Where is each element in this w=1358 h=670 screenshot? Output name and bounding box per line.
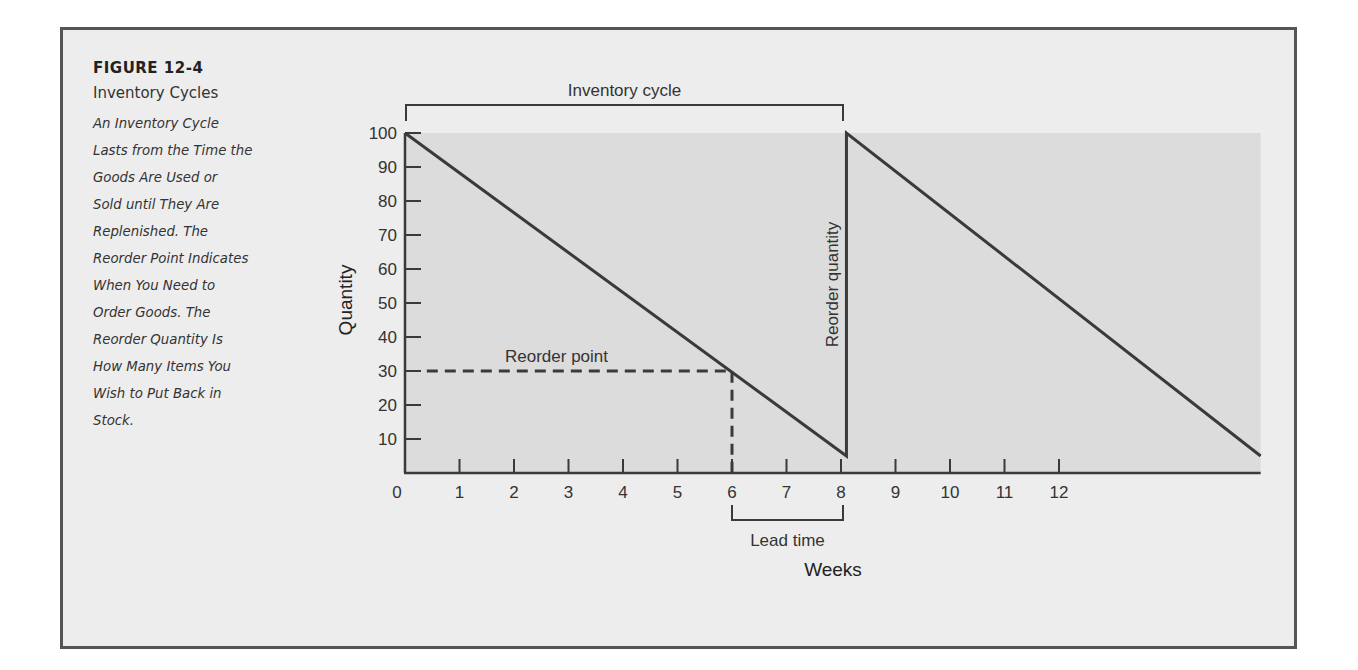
x-tick-label: 11 bbox=[996, 483, 1014, 502]
y-axis-title: Quantity bbox=[335, 264, 356, 335]
x-tick-label: 12 bbox=[1050, 483, 1069, 502]
lead-time-bracket bbox=[732, 505, 843, 520]
y-tick-label: 40 bbox=[378, 328, 397, 347]
x-tick-label: 2 bbox=[509, 483, 518, 502]
x-tick-label: 5 bbox=[673, 483, 682, 502]
inventory-cycle-label: Inventory cycle bbox=[568, 81, 681, 100]
x-tick-label: 1 bbox=[455, 483, 464, 502]
x-tick-label: 4 bbox=[618, 483, 627, 502]
y-tick-label: 20 bbox=[378, 396, 397, 415]
y-tick-label: 100 bbox=[369, 124, 397, 143]
x-tick-label: 0 bbox=[392, 483, 401, 502]
y-tick-label: 60 bbox=[378, 260, 397, 279]
y-tick-label: 90 bbox=[378, 158, 397, 177]
inventory-cycle-bracket bbox=[406, 105, 843, 121]
x-tick-label: 10 bbox=[941, 483, 960, 502]
lead-time-label: Lead time bbox=[750, 531, 825, 550]
y-tick-label: 80 bbox=[378, 192, 397, 211]
y-tick-label: 30 bbox=[378, 362, 397, 381]
y-tick-label: 50 bbox=[378, 294, 397, 313]
x-tick-label: 9 bbox=[891, 483, 900, 502]
reorder-point-label: Reorder point bbox=[505, 347, 608, 366]
y-tick-label: 10 bbox=[378, 430, 397, 449]
x-tick-label: 3 bbox=[564, 483, 573, 502]
x-tick-label: 6 bbox=[727, 483, 736, 502]
x-tick-label: 7 bbox=[782, 483, 791, 502]
x-tick-label: 8 bbox=[836, 483, 845, 502]
x-axis-title: Weeks bbox=[804, 559, 862, 580]
inventory-chart: 1020304050607080901000123456789101112Qua… bbox=[0, 0, 1358, 670]
y-tick-label: 70 bbox=[378, 226, 397, 245]
reorder-quantity-label: Reorder quantity bbox=[823, 221, 842, 347]
